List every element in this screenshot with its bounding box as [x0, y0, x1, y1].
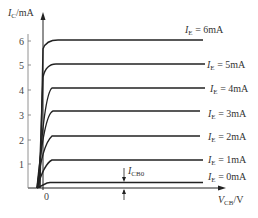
curve-ie-3 [37, 111, 200, 188]
svg-text:ICB0: ICB0 [127, 165, 145, 178]
curve-ie-1 [37, 160, 203, 188]
origin-label: 0 [44, 191, 49, 202]
y-tick-4: 4 [19, 85, 24, 96]
label-ie-0: IE = 0mA [207, 171, 247, 184]
curve-ie-6 [40, 40, 203, 188]
y-axis-arrow-icon [41, 12, 46, 20]
y-tick-3: 3 [19, 110, 24, 121]
y-tick-5: 5 [19, 60, 24, 71]
y-axis-label: IC/mA [7, 7, 35, 20]
y-tick-6: 6 [19, 36, 24, 47]
x-axis-arrow-icon [218, 186, 226, 191]
arrow-down-icon [122, 177, 126, 182]
arrow-up-icon [122, 189, 126, 194]
label-ie-4: IE = 4mA [209, 83, 249, 96]
curves [37, 40, 205, 188]
y-tick-1: 1 [19, 159, 24, 170]
curve-ie-5 [39, 64, 205, 188]
y-tick-2: 2 [19, 135, 24, 146]
curve-ie-2 [37, 136, 200, 188]
x-axis-label: VCB/V [218, 194, 244, 207]
curve-ie-4 [38, 88, 205, 188]
label-ie-3: IE = 3mA [207, 108, 247, 121]
label-ie-5: IE = 5mA [206, 59, 246, 72]
label-ie-2: IE = 2mA [207, 131, 247, 144]
y-ticks: 1 2 3 4 5 6 [19, 36, 31, 170]
chart: 1 2 3 4 5 6 0 IC/mA VCB/V IE = 6mA IE = … [0, 0, 258, 218]
label-ie-1: IE = 1mA [207, 154, 247, 167]
label-ie-6: IE = 6mA [184, 24, 224, 37]
curve-ie-0 [37, 183, 203, 189]
